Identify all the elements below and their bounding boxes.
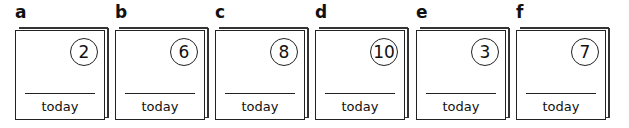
day-number-circle: 3	[471, 38, 499, 66]
calendar-page: 3 today	[416, 30, 506, 120]
card-letter: d	[315, 4, 327, 21]
day-number-circle: 10	[370, 38, 398, 66]
calendar-card-f: f 7 today	[514, 0, 614, 128]
card-letter: e	[416, 4, 428, 21]
day-number-circle: 6	[170, 38, 198, 66]
calendar-page: 7 today	[516, 30, 606, 120]
divider-line	[426, 93, 496, 94]
divider-line	[225, 93, 295, 94]
card-letter: f	[516, 4, 523, 21]
day-number-circle: 2	[70, 38, 98, 66]
divider-line	[526, 93, 596, 94]
today-label: today	[116, 99, 204, 114]
today-label: today	[517, 99, 605, 114]
calendar-page: 10 today	[315, 30, 405, 120]
today-label: today	[16, 99, 104, 114]
today-label: today	[417, 99, 505, 114]
divider-line	[325, 93, 395, 94]
calendar-page: 2 today	[15, 30, 105, 120]
today-label: today	[316, 99, 404, 114]
divider-line	[125, 93, 195, 94]
calendar-card-b: b 6 today	[113, 0, 213, 128]
calendar-page: 8 today	[215, 30, 305, 120]
calendar-page: 6 today	[115, 30, 205, 120]
calendar-card-d: d 10 today	[313, 0, 413, 128]
card-letter: b	[115, 4, 127, 21]
card-letter: a	[15, 4, 26, 21]
calendar-card-e: e 3 today	[414, 0, 514, 128]
divider-line	[25, 93, 95, 94]
day-number-circle: 8	[270, 38, 298, 66]
today-label: today	[216, 99, 304, 114]
calendar-card-a: a 2 today	[13, 0, 113, 128]
card-letter: c	[215, 4, 225, 21]
calendar-card-c: c 8 today	[213, 0, 313, 128]
day-number-circle: 7	[571, 38, 599, 66]
